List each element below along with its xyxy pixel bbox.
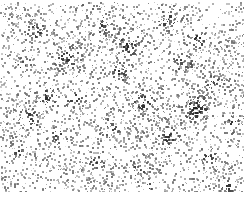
- scatter-plot-canvas: [0, 0, 251, 197]
- point-pattern-figure: Dense two-dimensional random point patte…: [0, 0, 251, 197]
